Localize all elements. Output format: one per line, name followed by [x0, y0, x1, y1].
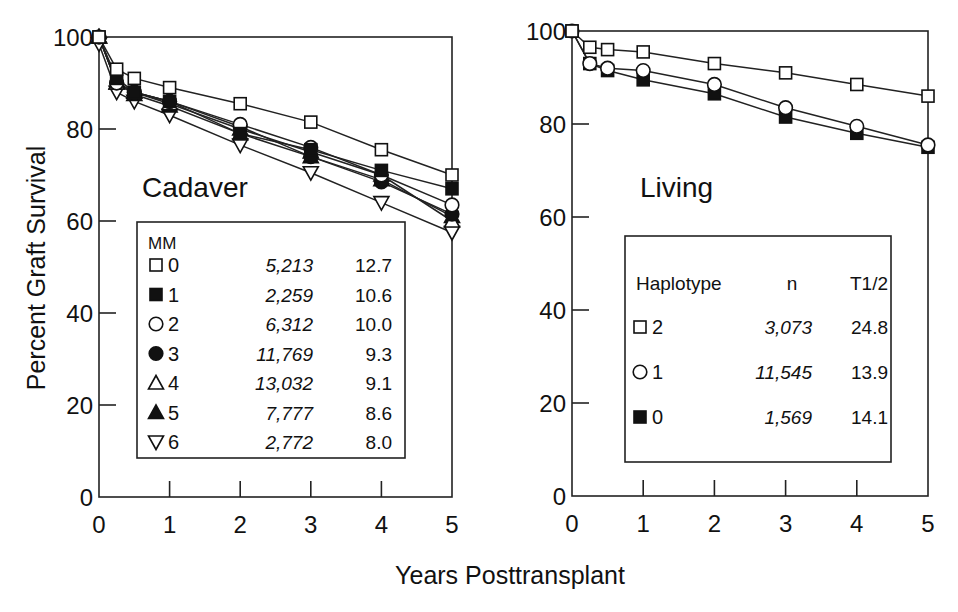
open-circle-legend-icon	[633, 365, 647, 379]
legend-label: 1	[168, 284, 179, 306]
legend-label: 4	[168, 372, 179, 394]
legend-header-t: T1/2	[850, 273, 888, 294]
open-circle-marker	[601, 61, 615, 75]
filled-square-marker	[305, 144, 317, 156]
legend-n: 3,073	[764, 317, 812, 338]
y-tick-label: 100	[526, 18, 566, 45]
open-square-legend-icon	[634, 321, 646, 333]
open-circle-marker	[445, 198, 459, 212]
x-tick-label: 3	[779, 510, 792, 537]
open-circle-marker	[779, 101, 793, 115]
legend-n: 5,213	[265, 255, 313, 276]
x-tick-label: 2	[708, 510, 721, 537]
legend-header: Haplotype	[636, 273, 722, 294]
open-circle-marker	[636, 64, 650, 78]
x-tick-label: 3	[304, 511, 317, 538]
figure: 020406080100012345CadaverMM05,21312.712,…	[0, 0, 958, 612]
y-tick-label: 80	[66, 116, 93, 143]
filled-square-legend-icon	[634, 411, 646, 423]
filled-square-legend-icon	[150, 289, 162, 301]
open-square-marker	[128, 72, 140, 84]
legend: HaplotypenT1/223,07324.8111,54513.901,56…	[625, 236, 891, 462]
series-line-6	[99, 44, 452, 233]
legend-t-half: 8.0	[366, 432, 392, 453]
filled-square-marker	[128, 86, 140, 98]
filled-square-marker	[446, 183, 458, 195]
open-circle-legend-icon	[149, 317, 163, 331]
open-square-marker	[111, 63, 123, 75]
legend-n: 11,545	[755, 362, 812, 383]
filled-circle-legend-icon	[149, 347, 163, 361]
legend-n: 11,769	[256, 344, 313, 365]
x-tick-label: 0	[565, 510, 578, 537]
filled-square-marker	[164, 95, 176, 107]
legend-header: MM	[148, 234, 176, 253]
legend-label: 0	[168, 254, 179, 276]
open-circle-marker	[850, 120, 864, 134]
legend-box	[625, 236, 891, 462]
open-square-marker	[584, 41, 596, 53]
series-line-0	[99, 37, 452, 175]
legend-n: 13,032	[255, 373, 314, 394]
y-tick-label: 60	[539, 204, 566, 231]
open-square-marker	[93, 31, 105, 43]
legend-n: 6,312	[265, 314, 313, 335]
x-tick-label: 1	[637, 510, 650, 537]
legend-n: 1,569	[764, 407, 812, 428]
x-tick-label: 5	[921, 510, 934, 537]
legend-t-half: 10.0	[355, 314, 392, 335]
open-circle-marker	[921, 138, 935, 152]
legend-t-half: 9.1	[366, 373, 392, 394]
x-tick-label: 4	[850, 510, 863, 537]
open-square-marker	[234, 98, 246, 110]
y-tick-label: 80	[539, 111, 566, 138]
legend-n: 2,259	[264, 285, 313, 306]
series-line-2	[572, 31, 928, 96]
open-square-marker	[566, 25, 578, 37]
series-line-0	[572, 31, 928, 147]
legend: MM05,21312.712,25910.626,31210.0311,7699…	[137, 222, 405, 458]
y-tick-label: 40	[66, 300, 93, 327]
cadaver-panel: 020406080100012345CadaverMM05,21312.712,…	[53, 24, 460, 538]
y-tick-label: 0	[553, 483, 566, 510]
open-square-marker	[922, 90, 934, 102]
open-square-marker	[446, 169, 458, 181]
filled-square-marker	[375, 164, 387, 176]
x-tick-label: 4	[375, 511, 388, 538]
open-square-marker	[375, 144, 387, 156]
open-square-marker	[851, 78, 863, 90]
open-square-marker	[602, 44, 614, 56]
legend-label: 5	[168, 402, 179, 424]
living-panel: 020406080100012345LivingHaplotypenT1/223…	[526, 18, 935, 537]
open-square-marker	[305, 116, 317, 128]
y-tick-label: 20	[539, 390, 566, 417]
open-square-marker	[637, 46, 649, 58]
legend-label: 2	[652, 316, 663, 338]
legend-n: 2,772	[264, 432, 313, 453]
legend-t-half: 13.9	[851, 362, 888, 383]
y-tick-label: 100	[53, 24, 93, 51]
legend-t-half: 12.7	[355, 255, 392, 276]
legend-t-half: 24.8	[851, 317, 888, 338]
open-circle-marker	[583, 57, 597, 71]
open-triangle-down-marker	[303, 167, 318, 181]
filled-square-marker	[234, 128, 246, 140]
panel-title: Living	[640, 172, 713, 203]
legend-n: 7,777	[265, 403, 314, 424]
x-tick-label: 0	[92, 511, 105, 538]
y-tick-label: 20	[66, 392, 93, 419]
legend-header-n: n	[787, 273, 798, 294]
open-triangle-down-marker	[445, 227, 460, 241]
y-tick-label: 40	[539, 297, 566, 324]
legend-label: 1	[652, 361, 663, 383]
x-tick-label: 5	[445, 511, 458, 538]
y-tick-label: 0	[80, 484, 93, 511]
open-square-marker	[164, 82, 176, 94]
open-square-marker	[780, 67, 792, 79]
legend-t-half: 8.6	[366, 403, 392, 424]
legend-label: 3	[168, 343, 179, 365]
panel-title: Cadaver	[142, 172, 248, 203]
legend-label: 0	[652, 406, 663, 428]
x-tick-label: 2	[234, 511, 247, 538]
open-square-legend-icon	[150, 259, 162, 271]
